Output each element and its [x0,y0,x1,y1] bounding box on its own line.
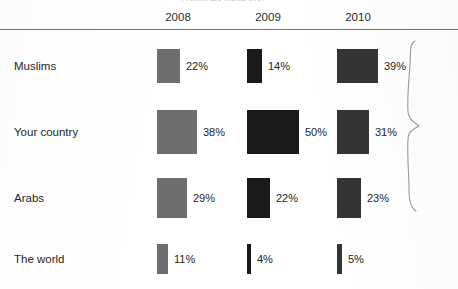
bar-value-your-country-2009: 50% [305,126,327,138]
bar-your-country-2010 [337,110,369,154]
bar-cell-your-country-2010: 31% [337,112,397,152]
chart-row-your-country: Your country 38% 50% 31% [0,99,458,165]
bar-cell-the-world-2009: 4% [247,239,273,279]
column-header-row: 2008 2009 2010 [0,11,458,27]
bar-cell-the-world-2008: 11% [157,239,195,279]
column-header-2010: 2010 [328,11,388,23]
row-label-arabs: Arabs [14,192,44,204]
bar-value-your-country-2010: 31% [375,126,397,138]
bar-value-the-world-2009: 4% [257,253,273,265]
bar-cell-your-country-2008: 38% [157,112,225,152]
bar-the-world-2008 [157,244,168,274]
bar-cell-arabs-2008: 29% [157,178,215,218]
bar-cell-arabs-2009: 22% [247,178,298,218]
bar-value-the-world-2010: 5% [348,253,364,265]
bar-cell-arabs-2010: 23% [337,178,389,218]
bar-muslims-2010 [337,49,378,83]
bar-the-world-2010 [337,244,342,274]
bar-value-muslims-2009: 14% [268,60,290,72]
bar-your-country-2009 [247,110,299,154]
bar-the-world-2009 [247,244,251,274]
bar-cell-muslims-2010: 39% [337,46,406,86]
chart-row-the-world: The world 11% 4% 5% [0,226,458,289]
bar-value-muslims-2008: 22% [186,60,208,72]
chart-title: countries have you ... [0,0,458,1]
bar-arabs-2010 [337,178,361,218]
bar-value-your-country-2008: 38% [203,126,225,138]
row-label-the-world: The world [14,253,65,265]
column-header-2009: 2009 [238,11,298,23]
bar-value-arabs-2009: 22% [276,192,298,204]
bar-value-muslims-2010: 39% [384,60,406,72]
bar-muslims-2008 [157,49,180,83]
bar-value-arabs-2008: 29% [193,192,215,204]
bar-cell-muslims-2008: 22% [157,46,208,86]
bar-value-arabs-2010: 23% [367,192,389,204]
bar-cell-the-world-2010: 5% [337,239,364,279]
bar-value-the-world-2008: 11% [174,253,195,265]
chart-row-arabs: Arabs 29% 22% 23% [0,165,458,231]
bar-your-country-2008 [157,110,197,154]
column-header-2008: 2008 [148,11,208,23]
bar-arabs-2009 [247,178,270,218]
bar-cell-your-country-2009: 50% [247,112,327,152]
bar-arabs-2008 [157,178,187,218]
row-label-muslims: Muslims [14,60,56,72]
bar-cell-muslims-2009: 14% [247,46,290,86]
header-divider-rule [0,29,458,30]
chart-row-muslims: Muslims 22% 14% 39% [0,33,458,99]
bar-muslims-2009 [247,49,262,83]
row-label-your-country: Your country [14,126,78,138]
